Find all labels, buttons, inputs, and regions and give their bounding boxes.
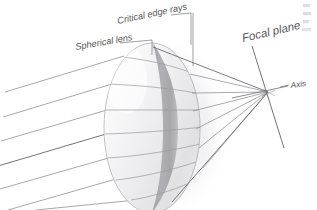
lens-diagram-canvas: Spherical lens Critical edge rays Focal … (0, 0, 317, 210)
lens-diagram-figure: Spherical lens Critical edge rays Focal … (0, 0, 317, 210)
